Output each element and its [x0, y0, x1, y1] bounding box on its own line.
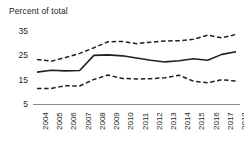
chart-container: Percent of total 5152535 200420052006200…	[0, 0, 244, 142]
plot-area	[0, 0, 244, 142]
series-line-upper-bound	[37, 34, 236, 61]
series-line-estimate	[37, 52, 236, 72]
series-line-lower-bound	[37, 75, 236, 88]
data-series-layer	[37, 34, 236, 88]
